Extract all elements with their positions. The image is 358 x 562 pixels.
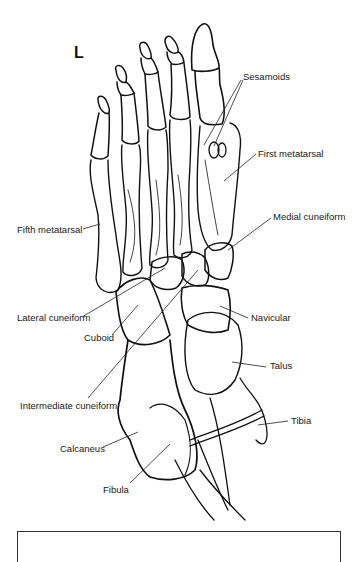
navicular-bone (181, 286, 230, 333)
leader-lines (82, 80, 288, 483)
label-first-metatarsal: First metatarsal (258, 148, 323, 159)
fourth-toe-phalanges (116, 66, 139, 144)
talus-bone (185, 312, 242, 394)
label-talus: Talus (270, 360, 292, 371)
caption-box (17, 531, 341, 562)
label-cuboid: Cuboid (84, 332, 114, 343)
label-sesamoids: Sesamoids (243, 71, 290, 82)
side-marker-left: L (74, 44, 84, 62)
label-navicular: Navicular (251, 312, 291, 323)
label-intermediate-cuneiform: Intermediate cuneiform (20, 400, 117, 411)
hallux-phalanges (192, 24, 225, 125)
label-calcaneus: Calcaneus (60, 443, 105, 454)
label-lateral-cuneiform: Lateral cuneiform (17, 312, 90, 323)
label-tibia: Tibia (291, 415, 311, 426)
tibia-fibula (175, 378, 267, 520)
label-fibula: Fibula (103, 484, 129, 495)
calcaneus-inner (150, 404, 190, 475)
second-toe-phalanges (165, 36, 190, 119)
fifth-toe-phalanges (91, 96, 109, 159)
label-fifth-metatarsal: Fifth metatarsal (17, 224, 82, 235)
sesamoids (209, 142, 226, 158)
third-toe-phalanges (140, 42, 166, 130)
label-medial-cuneiform: Medial cuneiform (273, 211, 345, 222)
